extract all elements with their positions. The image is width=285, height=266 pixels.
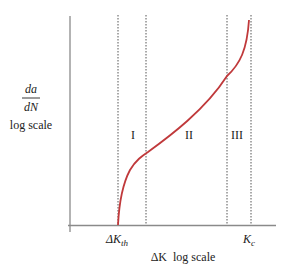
y-label-scale: log scale: [10, 118, 52, 132]
x-tick-delta-k-th-sub: th: [121, 238, 129, 248]
x-tick-delta-k-th-main: ΔK: [105, 232, 122, 246]
x-axis-label: ΔK log scale: [151, 250, 216, 264]
region-label-2: II: [185, 128, 193, 142]
region-label-1: I: [131, 128, 135, 142]
crack-growth-curve: [118, 20, 249, 225]
x-tick-k-c-sub: c: [251, 238, 255, 248]
fatigue-crack-growth-diagram: I II III da dN log scale ΔKth Kc ΔK log …: [0, 0, 285, 266]
region-label-3: III: [231, 128, 243, 142]
y-label-denominator: dN: [24, 100, 39, 114]
x-tick-delta-k-th: ΔKth: [105, 232, 129, 248]
y-label-numerator: da: [25, 82, 37, 96]
x-tick-k-c: Kc: [242, 232, 255, 248]
